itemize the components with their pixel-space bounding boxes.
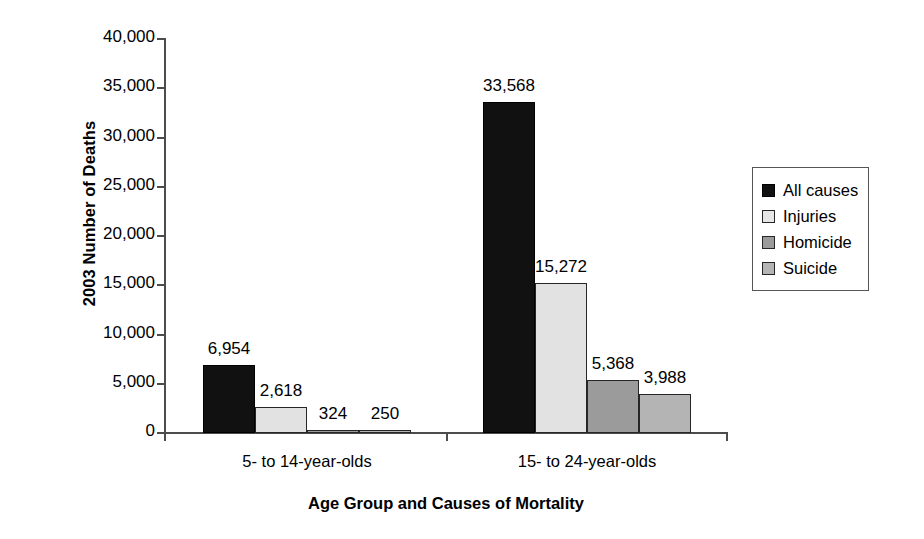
legend-swatch-icon bbox=[762, 262, 775, 275]
legend: All causesInjuriesHomicideSuicide bbox=[752, 167, 869, 291]
legend-swatch-icon bbox=[762, 184, 775, 197]
y-tick-label: 0 bbox=[146, 421, 155, 441]
x-tick-mark bbox=[726, 432, 728, 441]
y-tick-mark bbox=[157, 137, 165, 139]
y-tick-mark bbox=[157, 87, 165, 89]
bar-value-label: 3,988 bbox=[625, 368, 705, 388]
y-tick-label: 5,000 bbox=[112, 372, 155, 392]
x-axis-title: Age Group and Causes of Mortality bbox=[164, 494, 728, 513]
bar-value-label: 33,568 bbox=[469, 76, 549, 96]
y-tick-mark bbox=[157, 235, 165, 237]
bar-value-label: 6,954 bbox=[189, 339, 269, 359]
x-tick-mark bbox=[446, 432, 448, 441]
bar-value-label: 250 bbox=[345, 404, 425, 424]
plot-area: 05,00010,00015,00020,00025,00030,00035,0… bbox=[164, 38, 728, 433]
x-tick-mark bbox=[164, 432, 166, 441]
y-tick-label: 15,000 bbox=[103, 273, 155, 293]
bar-chart: 2003 Number of Deaths 05,00010,00015,000… bbox=[0, 0, 924, 539]
y-axis-title: 2003 Number of Deaths bbox=[80, 49, 99, 379]
y-tick-mark bbox=[157, 383, 165, 385]
y-tick-label: 10,000 bbox=[103, 323, 155, 343]
legend-label: Suicide bbox=[783, 259, 837, 278]
y-tick-label: 40,000 bbox=[103, 27, 155, 47]
y-tick-label: 30,000 bbox=[103, 126, 155, 146]
x-category-label: 15- to 24-year-olds bbox=[518, 452, 657, 471]
x-category-label: 5- to 14-year-olds bbox=[242, 452, 371, 471]
legend-label: Homicide bbox=[783, 233, 852, 252]
legend-label: Injuries bbox=[783, 207, 836, 226]
bar bbox=[587, 380, 639, 433]
bar bbox=[359, 430, 411, 433]
legend-item[interactable]: Injuries bbox=[762, 203, 858, 229]
bar bbox=[307, 430, 359, 433]
legend-item[interactable]: Homicide bbox=[762, 229, 858, 255]
y-tick-mark bbox=[157, 334, 165, 336]
y-tick-label: 25,000 bbox=[103, 175, 155, 195]
bar bbox=[639, 394, 691, 433]
legend-label: All causes bbox=[783, 181, 858, 200]
legend-item[interactable]: All causes bbox=[762, 177, 858, 203]
legend-item[interactable]: Suicide bbox=[762, 255, 858, 281]
legend-swatch-icon bbox=[762, 236, 775, 249]
y-tick-label: 35,000 bbox=[103, 76, 155, 96]
legend-swatch-icon bbox=[762, 210, 775, 223]
bar-value-label: 2,618 bbox=[241, 381, 321, 401]
bar-value-label: 15,272 bbox=[521, 257, 601, 277]
y-tick-mark bbox=[157, 284, 165, 286]
y-tick-mark bbox=[157, 38, 165, 40]
y-tick-label: 20,000 bbox=[103, 224, 155, 244]
y-tick-mark bbox=[157, 186, 165, 188]
